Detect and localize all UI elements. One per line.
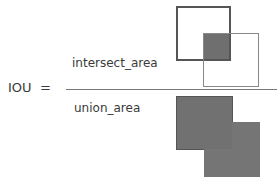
box-b-outline (203, 33, 259, 87)
union-overlap-fill (177, 97, 232, 149)
iou-label: IOU (8, 80, 32, 95)
denominator-label: union_area (74, 101, 140, 115)
equals-sign: = (40, 80, 51, 95)
fraction-line (66, 89, 277, 90)
numerator-label: intersect_area (72, 56, 158, 70)
